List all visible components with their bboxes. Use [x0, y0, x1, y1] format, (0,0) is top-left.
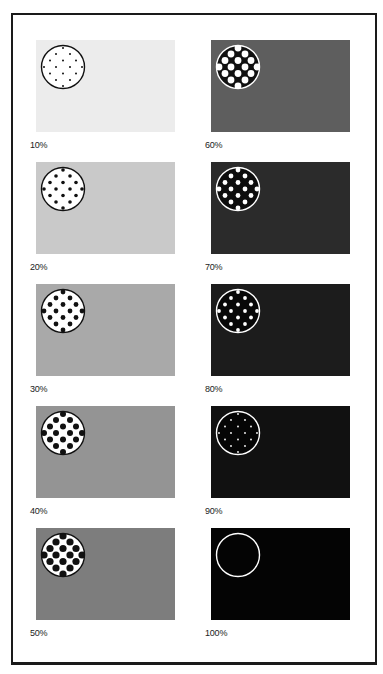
halftone-swatch-icon [36, 528, 175, 620]
tint-percentage-label: 20% [30, 262, 47, 272]
tint-panel-80pct [211, 284, 350, 376]
halftone-swatch-icon [211, 284, 350, 376]
figure-caption [11, 664, 373, 674]
tint-percentage-label: 30% [30, 384, 47, 394]
tint-panel-20pct [36, 162, 175, 254]
halftone-swatch-icon [36, 406, 175, 498]
halftone-swatch-icon [36, 162, 175, 254]
tint-panel-40pct [36, 406, 175, 498]
tint-panel-90pct [211, 406, 350, 498]
tint-panel-60pct [211, 40, 350, 132]
tint-panel-70pct [211, 162, 350, 254]
tint-percentage-label: 60% [205, 140, 222, 150]
halftone-swatch-icon [211, 40, 350, 132]
tint-percentage-label: 10% [30, 140, 47, 150]
halftone-swatch-icon [36, 284, 175, 376]
tint-percentage-label: 80% [205, 384, 222, 394]
tint-panel-30pct [36, 284, 175, 376]
tint-panel-100pct [211, 528, 350, 620]
tint-panel-50pct [36, 528, 175, 620]
tint-percentage-label: 100% [205, 628, 227, 638]
halftone-swatch-icon [36, 40, 175, 132]
halftone-swatch-icon [211, 406, 350, 498]
tint-percentage-label: 90% [205, 506, 222, 516]
tint-percentage-label: 70% [205, 262, 222, 272]
halftone-swatch-icon [211, 528, 350, 620]
halftone-swatch-icon [211, 162, 350, 254]
tint-panel-10pct [36, 40, 175, 132]
tint-percentage-label: 40% [30, 506, 47, 516]
tint-percentage-label: 50% [30, 628, 47, 638]
